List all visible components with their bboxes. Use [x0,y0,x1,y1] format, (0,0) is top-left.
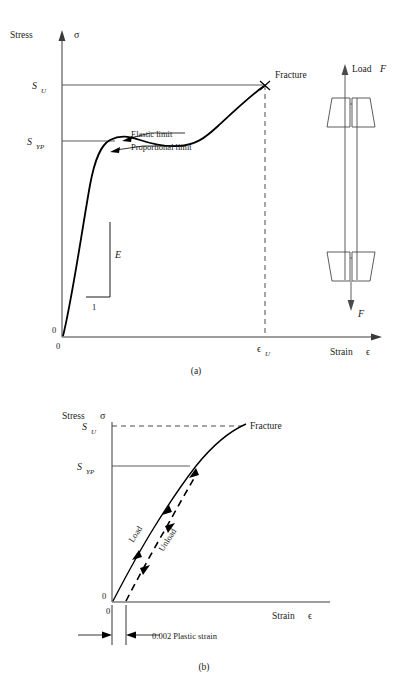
panel-b-xlabel-word: Strain [272,611,295,621]
panel-a-proportional-limit-text: Proportional limit [131,142,192,152]
panel-b-su-label: S [82,421,87,432]
specimen-lower-grip-left [327,252,350,281]
y-axis-arrowhead [59,30,66,41]
panel-a-origin-x-label: 0 [56,341,60,351]
panel-b-load-label: Load [126,523,144,544]
panel-a-slope-triangle [86,222,110,297]
panel-a-caption: (a) [191,366,202,377]
panel-a-epsilonu-subscript: U [265,350,271,358]
panel-b-offset-dimension [78,605,160,645]
panel-b-offset-note: 0.002 Plastic strain [152,631,218,641]
panel-a-su-subscript: U [41,87,47,95]
panel-b-syp-label: S [77,461,82,472]
panel-b-caption: (b) [198,662,209,673]
panel-b-syp-subscript: YP [86,468,95,476]
x-axis-arrowhead [371,334,382,341]
specimen-upper-grip-right [352,98,375,127]
panel-a-syp-subscript: YP [36,143,45,151]
panel-b-ylabel-symbol: σ [100,410,106,421]
panel-b-figure: Stress σ Strain ϵ 0 0 S U S YP Fractu [0,400,408,682]
specimen-load-label: Load [352,64,372,74]
panel-a-modulus-label: E [114,249,121,260]
specimen-load-symbol: F [379,63,387,74]
figure-page: Stress σ Strain ϵ 0 0 S U S YP ϵ U Fract… [0,0,408,682]
panel-a-ylabel-word: Stress [10,30,33,40]
panel-a-y-axis [59,30,66,337]
panel-a-run-label: 1 [92,302,96,312]
panel-b-origin-x-label: 0 [106,606,110,616]
specimen-lower-grip-right [352,252,375,281]
panel-a-xlabel-word: Strain [330,347,353,357]
tensile-specimen [327,64,375,311]
panel-a-stress-strain-curve [63,86,264,336]
panel-a-elastic-limit-text: Elastic limit [131,129,173,139]
panel-a-origin-y-label: 0 [52,325,56,335]
panel-b-su-subscript: U [91,428,97,436]
specimen-bottom-force-symbol: F [357,308,365,319]
panel-a-su-label: S [32,80,37,91]
panel-a-epsilonu-label: ϵ [257,343,261,354]
panel-b-ylabel-word: Stress [62,411,85,421]
panel-a-figure: Stress σ Strain ϵ 0 0 S U S YP ϵ U Fract… [0,0,408,400]
panel-a-x-axis [62,334,382,341]
panel-b-fracture-label: Fracture [250,421,282,431]
specimen-bottom-force-arrowhead [348,300,355,311]
panel-b-xlabel-symbol: ϵ [308,610,312,621]
panel-a-fracture-label: Fracture [275,70,307,80]
panel-b-load-curve [113,424,246,601]
panel-b-origin-y-label: 0 [102,591,106,601]
specimen-top-force-arrowhead [342,64,349,75]
panel-a-syp-label: S [27,136,32,147]
panel-a-xlabel-symbol: ϵ [366,346,370,357]
panel-a-ylabel-symbol: σ [74,29,80,40]
panel-b-unload-label: Unload [156,526,178,553]
specimen-upper-grip-left [327,98,350,127]
